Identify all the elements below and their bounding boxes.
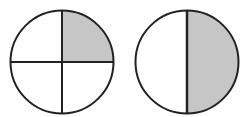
- quarters-circle: [11, 11, 114, 114]
- shaded-half: [187, 11, 238, 114]
- halves-circle: [136, 11, 239, 114]
- fraction-diagram: [0, 0, 249, 117]
